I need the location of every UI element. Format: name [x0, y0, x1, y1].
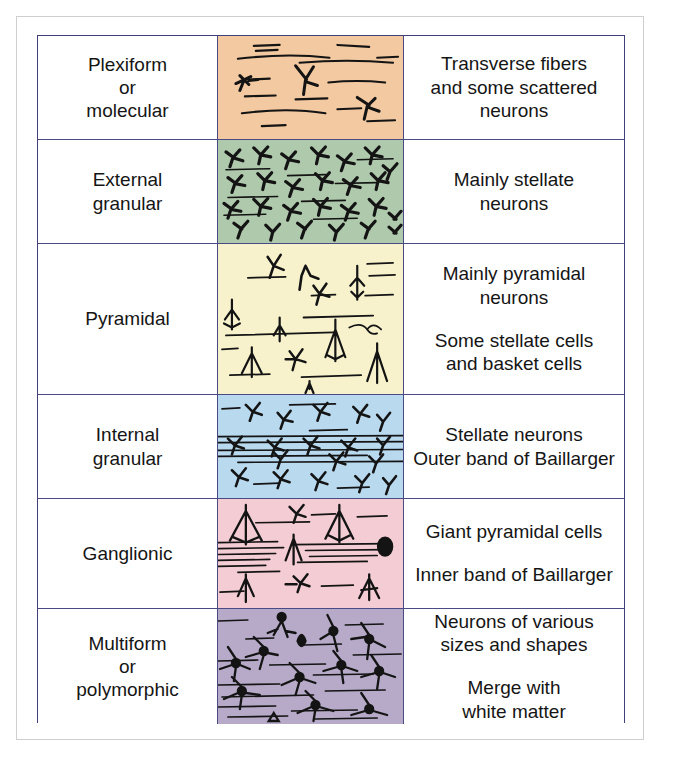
layer-name-cell: External granular	[38, 140, 218, 243]
table-row: Plexiform or molecular	[38, 36, 624, 140]
layer-name-line: granular	[93, 447, 163, 470]
description-line: Neurons of various	[434, 610, 593, 634]
internal-granular-illustration	[218, 395, 403, 498]
description-line: and some scattered	[431, 76, 598, 100]
description-cell: Stellate neurons Outer band of Baillarge…	[404, 395, 624, 498]
layer-name-line: polymorphic	[76, 678, 178, 701]
layer-name-cell: Pyramidal	[38, 244, 218, 394]
description-line: Outer band of Baillarger	[413, 447, 615, 471]
plexiform-illustration	[218, 36, 403, 139]
table-row: Pyramidal	[38, 244, 624, 395]
description-line: Transverse fibers	[431, 52, 598, 76]
description-line: neurons	[431, 99, 598, 123]
histology-cell-internal-granular	[218, 395, 404, 498]
histology-cell-ganglionic	[218, 499, 404, 608]
layer-name-line: or	[76, 655, 178, 678]
description-cell: Mainly stellate neurons	[404, 140, 624, 243]
description-line: Inner band of Baillarger	[415, 563, 613, 587]
histology-cell-external-granular	[218, 140, 404, 243]
layer-name-line: Internal	[93, 423, 163, 446]
layer-name-line: Multiform	[76, 632, 178, 655]
layer-name-line: External	[93, 168, 163, 191]
layer-name-cell: Multiform or polymorphic	[38, 609, 218, 724]
figure-frame: Plexiform or molecular	[16, 16, 644, 740]
external-granular-illustration	[218, 140, 403, 243]
layer-name-line: Plexiform	[86, 53, 168, 76]
description-line: Some stellate cells	[435, 329, 593, 353]
layer-name-cell: Plexiform or molecular	[38, 36, 218, 139]
description-line: Mainly stellate	[454, 168, 574, 192]
cortex-layers-table: Plexiform or molecular	[37, 35, 625, 723]
layer-name-line: molecular	[86, 99, 168, 122]
description-line: white matter	[462, 700, 565, 724]
description-line: neurons	[454, 192, 574, 216]
description-line: and basket cells	[435, 352, 593, 376]
layer-name-cell: Ganglionic	[38, 499, 218, 608]
table-row: Internal granular	[38, 395, 624, 499]
description-line: neurons	[443, 286, 586, 310]
histology-cell-multiform	[218, 609, 404, 724]
layer-name-line: Ganglionic	[83, 542, 173, 565]
layer-name-cell: Internal granular	[38, 395, 218, 498]
description-cell: Transverse fibers and some scattered neu…	[404, 36, 624, 139]
description-line: Mainly pyramidal	[443, 262, 586, 286]
description-line: Giant pyramidal cells	[426, 520, 602, 544]
description-cell: Giant pyramidal cells Inner band of Bail…	[404, 499, 624, 608]
layer-name-line: granular	[93, 192, 163, 215]
histology-cell-pyramidal	[218, 244, 404, 394]
layer-name-line: or	[86, 76, 168, 99]
description-line: Stellate neurons	[413, 423, 615, 447]
ganglionic-illustration	[218, 499, 403, 608]
histology-cell-plexiform	[218, 36, 404, 139]
layer-name-line: Pyramidal	[85, 307, 169, 330]
description-cell: Mainly pyramidal neurons Some stellate c…	[404, 244, 624, 394]
description-line: sizes and shapes	[434, 633, 593, 657]
multiform-illustration	[218, 609, 403, 724]
table-row: Ganglionic	[38, 499, 624, 609]
pyramidal-illustration	[218, 244, 403, 394]
description-cell: Neurons of various sizes and shapes Merg…	[404, 609, 624, 724]
table-row: Multiform or polymorphic	[38, 609, 624, 724]
table-row: External granular	[38, 140, 624, 244]
description-line: Merge with	[462, 676, 565, 700]
